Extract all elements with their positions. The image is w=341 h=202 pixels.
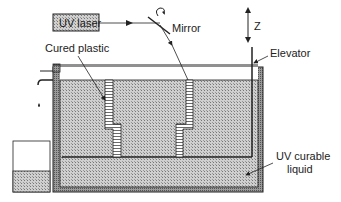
elevator-label: Elevator	[270, 47, 311, 59]
z-label: Z	[254, 20, 261, 32]
tank	[38, 64, 263, 192]
stereolithography-diagram: UV laser Mirror Z Cured plastic Elevator…	[0, 0, 341, 202]
cured-plastic-label: Cured plastic	[45, 42, 110, 54]
uv-liquid-label-2: liquid	[287, 163, 313, 175]
uv-liquid-label-1: UV curable	[276, 150, 330, 162]
drop-icon	[38, 103, 40, 107]
mirror-label: Mirror	[172, 22, 201, 34]
reservoir	[13, 141, 50, 192]
uv-laser-label: UV laser	[59, 17, 102, 29]
z-axis-arrow: Z	[245, 7, 261, 43]
uv-laser: UV laser	[53, 14, 102, 31]
